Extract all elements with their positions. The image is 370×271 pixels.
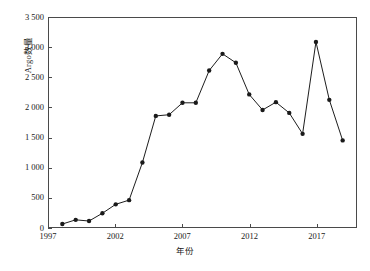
data-point: [114, 202, 118, 206]
x-tick-label: 2012: [228, 232, 272, 241]
data-point: [247, 92, 251, 96]
y-tick-mark: [48, 138, 52, 139]
y-tick-label: 0: [0, 224, 44, 233]
y-tick-mark: [48, 168, 52, 169]
data-point: [207, 68, 211, 72]
series-markers: [60, 40, 345, 226]
data-point: [74, 218, 78, 222]
data-point: [154, 114, 158, 118]
x-tick-mark: [317, 224, 318, 228]
y-tick-label: 1 500: [0, 133, 44, 142]
data-point: [127, 198, 131, 202]
x-tick-mark: [115, 224, 116, 228]
y-tick-mark: [48, 17, 52, 18]
data-point: [220, 52, 224, 56]
data-point: [234, 61, 238, 65]
data-series-plot: [49, 18, 356, 227]
y-tick-label: 2 500: [0, 73, 44, 82]
plot-area: [48, 17, 357, 228]
y-tick-label: 3 000: [0, 43, 44, 52]
y-axis-tick-labels: 05001 0001 5002 0002 5003 0003 500: [0, 0, 44, 271]
chart-figure: 05001 0001 5002 0002 5003 0003 500 Argo数…: [0, 0, 370, 271]
data-point: [87, 219, 91, 223]
x-axis-title: 年份: [0, 246, 370, 256]
data-point: [314, 40, 318, 44]
y-tick-mark: [48, 77, 52, 78]
data-point: [340, 138, 344, 142]
y-tick-label: 3 500: [0, 13, 44, 22]
y-tick-label: 2 000: [0, 103, 44, 112]
data-point: [60, 222, 64, 226]
data-point: [260, 108, 264, 112]
data-point: [274, 100, 278, 104]
y-tick-mark: [48, 228, 52, 229]
y-tick-mark: [48, 198, 52, 199]
data-point: [180, 101, 184, 105]
data-point: [287, 111, 291, 115]
x-tick-label: 1997: [26, 232, 70, 241]
y-tick-label: 500: [0, 193, 44, 202]
data-point: [100, 211, 104, 215]
y-tick-mark: [48, 47, 52, 48]
data-point: [167, 113, 171, 117]
y-tick-mark: [48, 107, 52, 108]
x-tick-label: 2017: [295, 232, 339, 241]
x-tick-mark: [182, 224, 183, 228]
y-tick-label: 1 000: [0, 163, 44, 172]
x-tick-label: 2007: [160, 232, 204, 241]
y-axis-title: Argo数量: [23, 0, 33, 115]
x-tick-mark: [48, 224, 49, 228]
data-point: [140, 160, 144, 164]
x-tick-label: 2002: [93, 232, 137, 241]
data-point: [327, 98, 331, 102]
series-line: [62, 42, 342, 224]
data-point: [194, 101, 198, 105]
data-point: [300, 132, 304, 136]
x-tick-mark: [250, 224, 251, 228]
